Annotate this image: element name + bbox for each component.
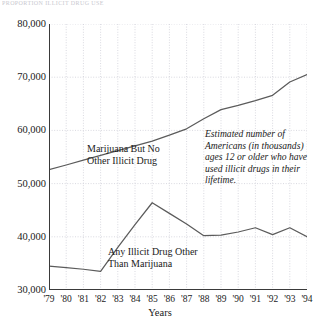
y-tick-label: 50,000 bbox=[0, 179, 46, 190]
x-axis-title: Years bbox=[0, 307, 320, 319]
y-tick-label: 60,000 bbox=[0, 125, 46, 136]
top-caption-fragment: PROPORTION ILLICIT DRUG USE bbox=[2, 0, 132, 7]
y-tick-label: 40,000 bbox=[0, 232, 46, 243]
chart-figure: PROPORTION ILLICIT DRUG USE 30,00040,000… bbox=[0, 0, 320, 327]
x-tick-label: '94 bbox=[294, 293, 320, 305]
annotation-marijuana-series: Marijuana But No Other Illicit Drug bbox=[87, 143, 160, 166]
x-axis-ticks: '79'80'81'82'83'84'85'86'87'88'89'90'91'… bbox=[49, 293, 307, 307]
y-tick-label: 70,000 bbox=[0, 72, 46, 83]
y-tick-label: 80,000 bbox=[0, 19, 46, 30]
annotation-definition-note: Estimated number of Americans (in thousa… bbox=[205, 128, 309, 186]
annotation-other-illicit-series: Any Illicit Drug Other Than Marijuana bbox=[108, 246, 198, 269]
